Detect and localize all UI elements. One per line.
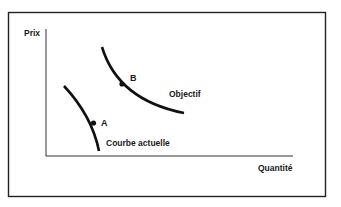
current-curve-label: Courbe actuelle	[106, 138, 170, 148]
y-axis-label: Prix	[24, 28, 40, 38]
point-a-label: A	[101, 118, 108, 128]
price-quantity-diagram: Prix Quantité A Courbe actuelle B Object…	[0, 0, 341, 207]
target-curve	[102, 47, 184, 113]
target-curve-label: Objectif	[169, 89, 201, 99]
point-a	[91, 120, 96, 125]
x-axis-label: Quantité	[258, 163, 293, 173]
current-curve	[64, 86, 99, 151]
point-b-label: B	[130, 73, 137, 83]
point-b	[119, 81, 124, 86]
